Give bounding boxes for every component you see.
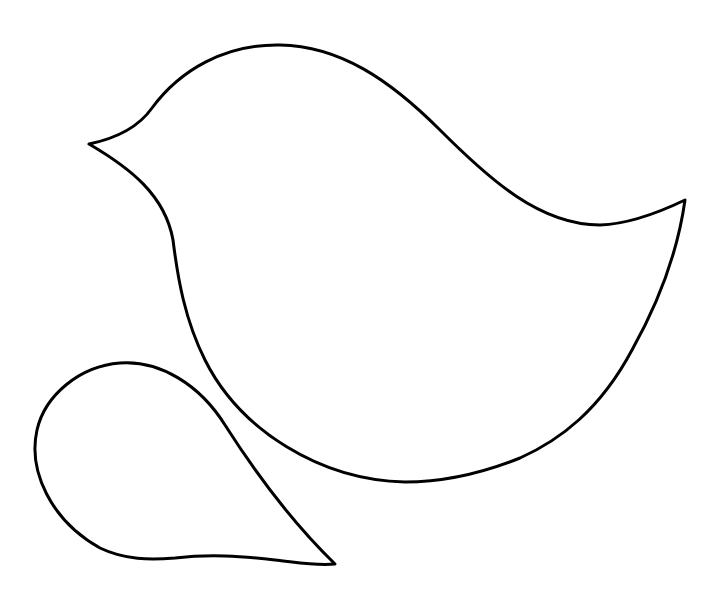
- background: [0, 0, 725, 600]
- bird-template-drawing: [0, 0, 725, 600]
- bird-template-canvas: Bird template outline: [0, 0, 725, 600]
